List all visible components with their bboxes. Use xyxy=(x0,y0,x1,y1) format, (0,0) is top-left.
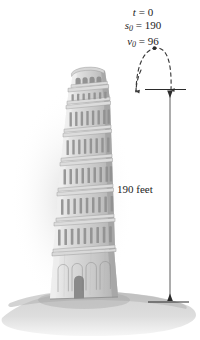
time-variable: t xyxy=(133,6,136,18)
initial-velocity-subscript: 0 xyxy=(132,40,136,49)
initial-velocity-value: 96 xyxy=(148,35,159,47)
dimension-arrow-bottom xyxy=(167,294,173,302)
tower-tier-6 xyxy=(53,218,115,253)
initial-velocity-equals: = xyxy=(139,35,145,47)
dimension-line-190-feet xyxy=(145,90,189,303)
initial-conditions-block: t = 0 s0 = 190 v0 = 96 xyxy=(100,6,186,51)
equation-time: t = 0 xyxy=(100,6,186,19)
trajectory-arc xyxy=(136,46,171,92)
initial-position-equals: = xyxy=(136,19,142,31)
dimension-label: 190 feet xyxy=(117,183,153,195)
initial-position-value: 190 xyxy=(145,19,162,31)
tower-tier-4 xyxy=(58,158,113,192)
tower-tier-5 xyxy=(56,188,114,222)
tower-base xyxy=(50,248,118,299)
time-equals: = xyxy=(139,6,145,18)
equation-initial-position: s0 = 190 xyxy=(100,19,186,35)
time-value: 0 xyxy=(148,6,154,18)
tower-doorway xyxy=(74,276,84,299)
equation-initial-velocity: v0 = 96 xyxy=(100,35,186,51)
dimension-arrow-top xyxy=(167,91,173,99)
initial-position-subscript: 0 xyxy=(129,24,133,33)
tower-belfry xyxy=(71,67,107,88)
pisa-projectile-figure xyxy=(0,0,200,340)
tower-tier-2 xyxy=(64,101,111,133)
tower-tier-3 xyxy=(61,129,112,162)
